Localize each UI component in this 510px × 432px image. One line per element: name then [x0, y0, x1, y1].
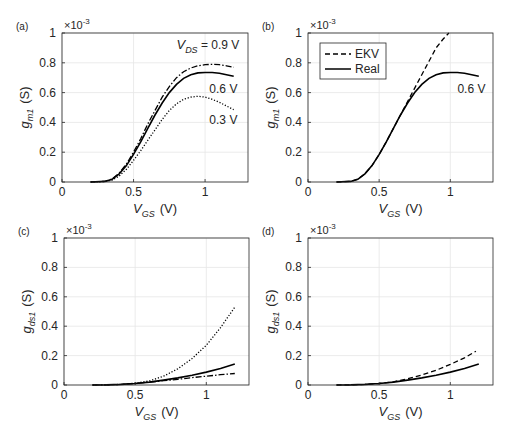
plot-area [308, 238, 493, 385]
panel-label: (a) [16, 21, 28, 32]
exponent-label: ×10-3 [64, 17, 90, 31]
plot-area [62, 33, 248, 182]
x-tick-label: 1 [203, 388, 210, 402]
panel-a: 00.5100.20.40.60.81×10-3(a)VGS(V)gm1(S)V… [16, 17, 248, 219]
panel-d: 00.5100.20.40.60.81×10-3(d)VGS(V)gds1(S) [262, 222, 493, 422]
y-tick-label: 1 [295, 231, 302, 245]
exponent-label: ×10-3 [310, 222, 336, 236]
x-tick-label: 0 [305, 185, 312, 199]
y-axis-label: gds1(S) [263, 289, 281, 333]
y-tick-label: 1 [51, 231, 58, 245]
legend-label: EKV [355, 47, 379, 61]
y-tick-label: 0.8 [285, 56, 302, 70]
y-tick-label: 0.6 [285, 86, 302, 100]
y-tick-label: 0.4 [39, 115, 56, 129]
legend-label: Real [355, 62, 380, 76]
x-tick-label: 0.5 [371, 185, 388, 199]
y-tick-label: 0.8 [41, 260, 58, 274]
exponent-label: ×10-3 [66, 222, 92, 236]
panel-label: (b) [262, 21, 274, 32]
figure: 00.5100.20.40.60.81×10-3(a)VGS(V)gm1(S)V… [0, 0, 510, 432]
x-tick-label: 0 [59, 185, 66, 199]
y-tick-label: 0.6 [39, 86, 56, 100]
x-tick-label: 0 [305, 388, 312, 402]
y-axis-label: gds1(S) [19, 289, 37, 333]
y-tick-label: 0.8 [285, 260, 302, 274]
panel-c: 00.5100.20.40.60.81×10-3(c)VGS(V)gds1(S) [18, 222, 249, 422]
y-tick-label: 0.2 [41, 349, 58, 363]
y-tick-label: 0.2 [285, 349, 302, 363]
x-axis-label: VGS(V) [378, 404, 422, 422]
plot-area [64, 238, 249, 385]
x-tick-label: 1 [447, 185, 454, 199]
panel-b: 00.5100.20.40.60.81×10-3(b)VGS(V)gm1(S)0… [262, 17, 493, 219]
y-tick-label: 0 [295, 378, 302, 392]
y-tick-label: 0 [295, 175, 302, 189]
y-tick-label: 1 [49, 26, 56, 40]
y-tick-label: 0 [51, 378, 58, 392]
y-axis-label: gm1(S) [263, 86, 281, 128]
x-tick-label: 1 [447, 388, 454, 402]
y-tick-label: 0.6 [41, 290, 58, 304]
y-tick-label: 0.2 [285, 145, 302, 159]
y-tick-label: 0 [49, 175, 56, 189]
y-tick-label: 0.4 [285, 319, 302, 333]
x-tick-label: 0.5 [125, 185, 142, 199]
x-tick-label: 0.5 [371, 388, 388, 402]
legend: EKVReal [320, 43, 386, 79]
y-tick-label: 0.8 [39, 56, 56, 70]
x-tick-label: 1 [202, 185, 209, 199]
annotation: 0.6 V [457, 82, 485, 96]
x-axis-label: VGS(V) [378, 201, 422, 219]
exponent-label: ×10-3 [310, 17, 336, 31]
x-axis-label: VGS(V) [133, 201, 177, 219]
panel-label: (d) [262, 226, 274, 237]
panel-label: (c) [18, 226, 30, 237]
y-tick-label: 0.2 [39, 145, 56, 159]
x-tick-label: 0.5 [127, 388, 144, 402]
y-tick-label: 0.4 [41, 319, 58, 333]
x-tick-label: 0 [61, 388, 68, 402]
y-tick-label: 0.6 [285, 290, 302, 304]
y-tick-label: 1 [295, 26, 302, 40]
y-tick-label: 0.4 [285, 115, 302, 129]
annotation: 0.6 V [209, 82, 237, 96]
annotation: 0.3 V [209, 113, 237, 127]
x-axis-label: VGS(V) [134, 404, 178, 422]
y-axis-label: gm1(S) [17, 86, 35, 128]
